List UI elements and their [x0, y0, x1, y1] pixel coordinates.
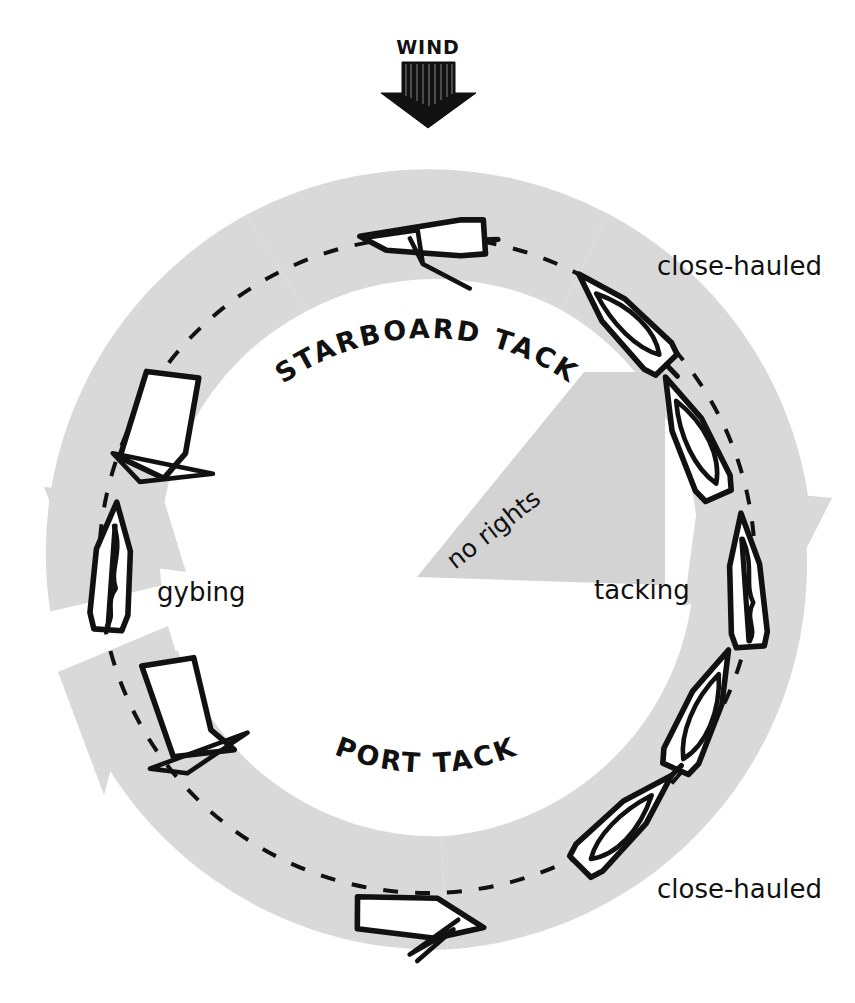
gybing-label: gybing — [157, 577, 246, 607]
wind-indicator: WIND — [381, 36, 476, 128]
no-rights-wedge: no rights — [417, 372, 665, 585]
sailing-points-of-sail-diagram: no rights WIND — [0, 0, 855, 1003]
port-tack-label: PORT TACK — [331, 731, 521, 779]
boat-port-close-reach — [204, 464, 207, 472]
starboard-tack-label: STARBOARD TACK — [269, 313, 584, 389]
close-hauled-lower-label: close-hauled — [657, 874, 822, 904]
close-hauled-upper-label: close-hauled — [657, 251, 822, 281]
wind-arrow-icon — [381, 62, 476, 128]
tacking-label: tacking — [594, 575, 690, 605]
wind-label: WIND — [396, 36, 460, 58]
diagram-canvas: no rights WIND — [0, 0, 855, 1003]
